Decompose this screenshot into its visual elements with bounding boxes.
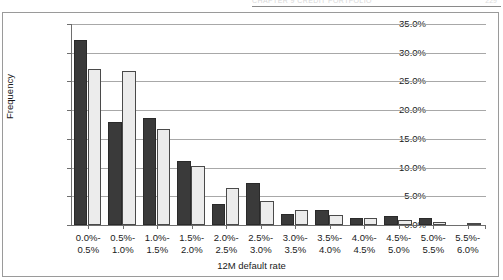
bar-series-2-light [467, 223, 481, 225]
bar-series-2-light [329, 215, 343, 225]
bar-series-2-light [191, 166, 205, 225]
x-tick-mark [433, 225, 434, 229]
bar-series-2-light [295, 210, 309, 226]
x-tick-mark [295, 225, 296, 229]
bar-series-2-light [157, 129, 171, 225]
x-tick-mark [330, 225, 331, 229]
bar-series-2-light [398, 220, 412, 225]
bar-series-2-light [433, 222, 447, 225]
bar-group [453, 24, 481, 225]
bar-series-1-dark [108, 122, 122, 225]
x-tick-label-line: 6.0% [447, 244, 490, 256]
bar-group [177, 24, 205, 225]
x-tick-mark [226, 225, 227, 229]
header-rule [252, 6, 501, 7]
page-running-header: CHAPTER 9 CREDIT PORTFOLIO 229 [0, 0, 503, 9]
bar-series-2-light [88, 69, 102, 225]
bar-group [315, 24, 343, 225]
bar-series-2-light [122, 71, 136, 225]
bar-series-2-light [226, 188, 240, 225]
x-tick-label-line: 5.5%- [447, 232, 490, 244]
running-head-text: CHAPTER 9 CREDIT PORTFOLIO [252, 0, 372, 4]
bar-series-1-dark [281, 214, 295, 225]
bar-series-1-dark [419, 218, 433, 225]
bar-group [143, 24, 171, 225]
bar-group [212, 24, 240, 225]
x-tick-mark [364, 225, 365, 229]
x-tick-label: 5.5%-6.0% [447, 232, 490, 255]
bar-series-1-dark [246, 183, 260, 225]
bar-series-2-light [260, 201, 274, 225]
x-tick-mark [468, 225, 469, 229]
y-axis-title: Frequency [4, 74, 15, 119]
bar-group [246, 24, 274, 225]
bar-group [384, 24, 412, 225]
x-tick-mark [261, 225, 262, 229]
x-tick-mark [123, 225, 124, 229]
bar-group [419, 24, 447, 225]
plot-area [71, 24, 486, 226]
page-folio-number: 229 [485, 0, 497, 4]
bar-series-1-dark [315, 210, 329, 226]
x-tick-mark [399, 225, 400, 229]
x-tick-mark [157, 225, 158, 229]
bar-series-1-dark [384, 216, 398, 225]
x-axis-title: 12M default rate [3, 260, 500, 271]
bar-series-1-dark [177, 161, 191, 225]
bar-series-1-dark [143, 118, 157, 225]
bar-group [74, 24, 102, 225]
x-tick-mark [88, 225, 89, 229]
x-tick-mark [485, 225, 486, 229]
bar-series-1-dark [74, 40, 88, 225]
gridline [72, 225, 486, 226]
bar-group [108, 24, 136, 225]
chart-container: Frequency 0.0%5.0%10.0%15.0%20.0%25.0%30… [2, 12, 499, 277]
bar-group [350, 24, 378, 225]
bar-series-1-dark [350, 218, 364, 225]
x-tick-mark [192, 225, 193, 229]
bar-series-1-dark [212, 204, 226, 225]
bar-group [281, 24, 309, 225]
bar-series-2-light [364, 218, 378, 225]
